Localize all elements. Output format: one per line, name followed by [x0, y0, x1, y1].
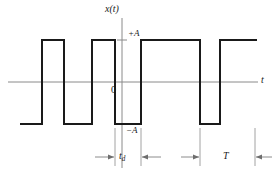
x-axis-label: t [261, 75, 264, 85]
waveform-figure: x(t) t 0 +A −A td T [0, 0, 276, 176]
y-axis-label: x(t) [105, 4, 119, 14]
level-low-label: −A [126, 126, 138, 135]
pulse-width-label: td [119, 151, 125, 163]
waveform-svg [0, 0, 276, 176]
pulse-width-sub: d [122, 155, 126, 163]
origin-label: 0 [111, 85, 116, 95]
level-high-label: +A [128, 29, 140, 38]
period-label: T [223, 151, 229, 161]
